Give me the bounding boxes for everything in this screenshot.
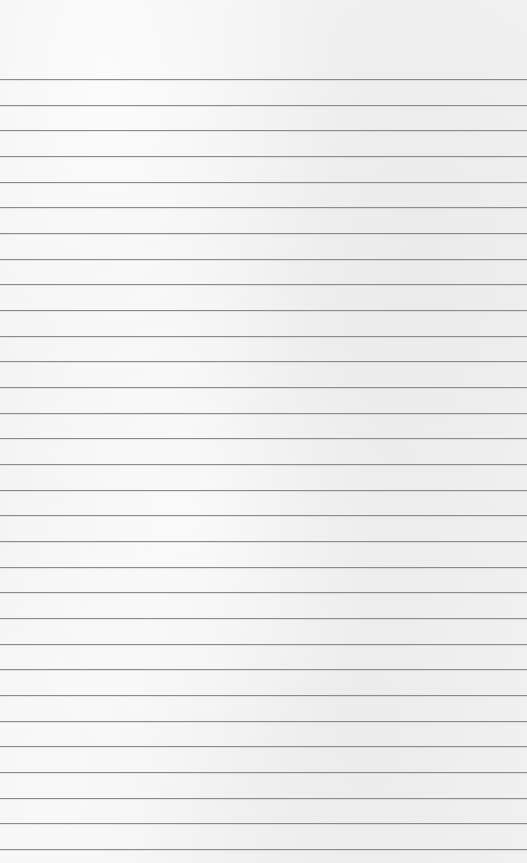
ruled-line [0, 156, 527, 157]
ruled-line [0, 387, 527, 388]
ruled-line [0, 310, 527, 311]
ruled-line [0, 618, 527, 619]
ruled-line [0, 233, 527, 234]
ruled-line [0, 541, 527, 542]
ruled-line [0, 182, 527, 183]
ruled-line [0, 284, 527, 285]
ruled-line [0, 336, 527, 337]
ruled-line [0, 259, 527, 260]
ruled-line [0, 721, 527, 722]
ruled-line [0, 823, 527, 824]
ruled-line [0, 79, 527, 80]
ruled-line [0, 490, 527, 491]
ruled-line [0, 772, 527, 773]
ruled-line [0, 413, 527, 414]
ruled-line [0, 464, 527, 465]
ruled-line [0, 567, 527, 568]
ruled-line [0, 515, 527, 516]
ruled-line [0, 438, 527, 439]
ruled-line [0, 695, 527, 696]
ruled-line [0, 592, 527, 593]
ruled-line [0, 105, 527, 106]
ruled-line [0, 669, 527, 670]
ruled-line [0, 644, 527, 645]
ruled-line [0, 849, 527, 850]
ruled-line [0, 130, 527, 131]
ruled-line [0, 746, 527, 747]
ruled-line [0, 207, 527, 208]
ruled-line [0, 798, 527, 799]
ruled-line [0, 361, 527, 362]
lined-paper [0, 0, 527, 863]
